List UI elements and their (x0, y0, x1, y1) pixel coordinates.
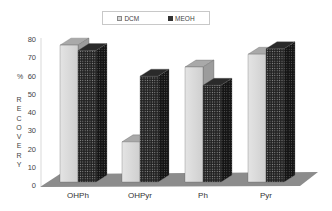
bar-side-meoh (284, 42, 295, 182)
bar-dcm-ph (185, 67, 203, 182)
bar-meoh-ohph (78, 51, 96, 182)
chart-plot-area (0, 0, 332, 211)
x-tick-label: OHPh (58, 191, 98, 200)
bar-dcm-ohph (60, 45, 78, 182)
bar-dcm-pyr (248, 54, 266, 182)
x-tick-label: Ph (183, 191, 223, 200)
bar-side-meoh (158, 69, 169, 182)
x-tick-label: OHPyr (120, 191, 160, 200)
bar-side-meoh (96, 44, 107, 182)
bar-side-meoh (221, 78, 232, 182)
bar-meoh-pyr (266, 49, 284, 182)
bar-meoh-ph (203, 85, 221, 182)
bars-group (60, 38, 295, 182)
bar-dcm-ohpyr (122, 142, 140, 182)
bar-meoh-ohpyr (140, 76, 158, 182)
x-tick-label: Pyr (246, 191, 286, 200)
